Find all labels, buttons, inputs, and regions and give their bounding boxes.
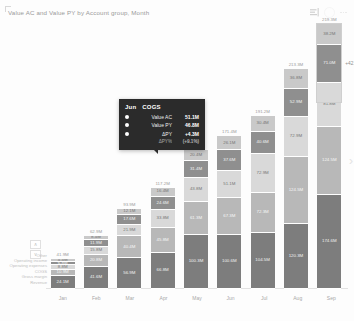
stacked-bar[interactable]: 41.9M4.4M6.8M8.8M10.9M24.1M xyxy=(51,259,75,289)
column-may[interactable]: 141.5M20.4M31.4M43.8M61.3M100.3M xyxy=(179,24,212,289)
x-axis-label-jan[interactable]: Jan xyxy=(46,295,80,307)
bar-segment-gross-margin[interactable]: 124.5M xyxy=(317,127,341,194)
stacked-bar[interactable]: 141.5M20.4M31.4M43.8M61.3M100.3M xyxy=(184,150,208,289)
bar-segment-revenue[interactable]: 24.1M xyxy=(51,276,75,289)
x-axis-label-feb[interactable]: Feb xyxy=(80,295,114,307)
segment-value-label: 16.4M xyxy=(157,189,169,193)
bar-segment-revenue[interactable]: 100.3M xyxy=(184,235,208,289)
segment-value-label: 100.3M xyxy=(189,259,204,263)
tooltip-label: ΔPY% xyxy=(132,139,172,144)
x-axis-label-aug[interactable]: Aug xyxy=(281,295,315,307)
x-axis-label-mar[interactable]: Mar xyxy=(113,295,147,307)
stacked-bar[interactable]: 171.4M26.1M37.6M51.1M67.3M100.6M xyxy=(217,136,241,289)
x-axis-label-jul[interactable]: Jul xyxy=(247,295,281,307)
bar-total-label: 219.3M xyxy=(317,17,341,22)
column-jul[interactable]: 191.2M30.4M40.6M72.9M72.3M104.5M xyxy=(246,24,279,289)
segment-value-label: 21.9M xyxy=(123,228,135,232)
bar-segment-gross-margin[interactable]: 45.8M xyxy=(151,228,175,253)
more-options-icon[interactable] xyxy=(340,9,347,16)
bar-segment-revenue[interactable]: 56.9M xyxy=(117,258,141,289)
bar-segment-gross-margin[interactable]: 72.3M xyxy=(251,193,275,232)
tooltip-row-value-py: Value PY 46.8M xyxy=(125,122,199,128)
bar-segment-operating-income[interactable]: 26.1M xyxy=(217,136,241,150)
segment-value-label: 41.6M xyxy=(90,275,102,279)
column-aug[interactable]: 213.3M36.8M52.9M72.9M124.5M120.3M xyxy=(279,24,312,289)
segment-value-label: 51.1M xyxy=(223,182,235,186)
bar-segment-cogs[interactable]: 72.9M xyxy=(251,154,275,193)
column-jun[interactable]: 171.4M26.1M37.6M51.1M67.3M100.6M xyxy=(213,24,246,289)
tooltip-label: Value PY xyxy=(132,122,172,128)
segment-value-label: 36.8M xyxy=(290,76,302,80)
stacked-bar[interactable]: 117.2M16.4M24.6M33.8M45.8M66.8M xyxy=(151,188,175,289)
bar-segment-operating-expenses[interactable]: 37.6M xyxy=(217,150,241,170)
tooltip-row-delta-py: ΔPY +4.3M xyxy=(125,131,199,137)
bar-total-label: 93.9M xyxy=(117,202,141,207)
bar-segment-gross-margin[interactable]: 67.3M xyxy=(217,198,241,234)
scroll-up-icon[interactable]: ∧ xyxy=(30,240,41,249)
bar-segment-gross-margin[interactable]: 124.5M xyxy=(284,157,308,224)
bar-segment-operating-expenses[interactable]: 17.6M xyxy=(117,215,141,225)
segment-value-label: 120.3M xyxy=(289,254,304,258)
bar-segment-revenue[interactable]: 100.6M xyxy=(217,235,241,289)
segment-value-label: 30.4M xyxy=(257,121,269,125)
x-axis-label-apr[interactable]: Apr xyxy=(147,295,181,307)
tooltip-header: Jun COGS xyxy=(125,104,199,110)
bar-segment-cogs[interactable]: 21.9M xyxy=(117,225,141,237)
stacked-bar[interactable]: 62.9M8.4M11.9M15.8M20.8M41.6M xyxy=(84,236,108,289)
segment-value-label: 37.6M xyxy=(223,158,235,162)
x-axis-label-sep[interactable]: Sep xyxy=(315,295,349,307)
bar-segment-operating-income[interactable]: 30.4M xyxy=(251,116,275,132)
column-apr[interactable]: 117.2M16.4M24.6M33.8M45.8M66.8M xyxy=(146,24,179,289)
segment-value-label: 8.4M xyxy=(91,236,101,240)
stacked-bar[interactable]: 93.9M12.1M17.6M21.9M40.4M56.9M xyxy=(117,209,141,290)
stacked-bar[interactable]: 191.2M30.4M40.6M72.9M72.3M104.5M xyxy=(251,116,275,289)
bar-total-label: 117.2M xyxy=(151,181,175,186)
segment-value-label: 11.9M xyxy=(90,241,102,245)
tooltip-value: 51.1M xyxy=(175,114,199,120)
delta-label: +42.1M xyxy=(345,61,354,66)
stacked-bar[interactable]: 213.3M36.8M52.9M72.9M124.5M120.3M xyxy=(284,69,308,289)
tooltip-label: ΔPY xyxy=(132,131,172,137)
segment-value-label: 100.6M xyxy=(222,259,237,263)
segment-value-label: 72.3M xyxy=(257,210,269,214)
bar-segment-operating-income[interactable]: 20.4M xyxy=(184,150,208,161)
chart-tooltip: Jun COGS Value AC 51.1M Value PY 46.8M Δ… xyxy=(119,99,205,150)
bar-segment-operating-expenses[interactable]: 40.6M xyxy=(251,132,275,154)
x-axis-label-jun[interactable]: Jun xyxy=(214,295,248,307)
bar-total-label: 62.9M xyxy=(84,229,108,234)
tooltip-tail xyxy=(153,149,158,154)
segment-value-label: 8.8M xyxy=(58,265,68,269)
power-bi-visual: Value AC and Value PY by Account group, … xyxy=(0,0,354,321)
bar-segment-gross-margin[interactable]: 40.4M xyxy=(117,236,141,258)
bar-segment-gross-margin[interactable]: 61.3M xyxy=(184,202,208,235)
bar-segment-cogs[interactable]: 33.8M xyxy=(151,210,175,228)
bar-segment-cogs[interactable]: 51.1M xyxy=(217,171,241,199)
bar-segment-cogs[interactable]: 15.8M xyxy=(84,247,108,256)
bar-segment-revenue[interactable]: 66.8M xyxy=(151,253,175,289)
bar-segment-cogs[interactable]: 43.8M xyxy=(184,178,208,202)
column-mar[interactable]: 93.9M12.1M17.6M21.9M40.4M56.9M xyxy=(113,24,146,289)
bar-segment-operating-expenses[interactable]: 31.4M xyxy=(184,161,208,178)
bar-segment-cogs[interactable]: 72.9M xyxy=(284,117,308,156)
x-axis-label-may[interactable]: May xyxy=(180,295,214,307)
column-jan[interactable]: 41.9M4.4M6.8M8.8M10.9M24.1M xyxy=(46,24,79,289)
column-feb[interactable]: 62.9M8.4M11.9M15.8M20.8M41.6M xyxy=(79,24,112,289)
next-page-chevron-icon[interactable]: › xyxy=(349,154,353,168)
bar-segment-revenue[interactable]: 104.5M xyxy=(251,233,275,289)
bar-segment-operating-expenses[interactable]: 24.6M xyxy=(151,197,175,210)
bar-segment-operating-income[interactable]: 16.4M xyxy=(151,188,175,197)
segment-value-label: 26.1M xyxy=(223,141,235,145)
bar-segment-revenue[interactable]: 120.3M xyxy=(284,224,308,289)
bar-segment-operating-expenses[interactable]: 52.9M xyxy=(284,89,308,118)
bar-segment-revenue[interactable]: 41.6M xyxy=(84,267,108,289)
segment-value-label: 174.6M xyxy=(322,239,337,243)
legend-item-revenue[interactable]: Revenue xyxy=(30,280,47,285)
tooltip-label: Value AC xyxy=(132,114,172,120)
filter-bars-icon[interactable] xyxy=(310,8,319,17)
bar-segment-revenue[interactable]: 174.6M xyxy=(317,195,341,289)
segment-value-label: 17.6M xyxy=(123,217,135,221)
bar-segment-gross-margin[interactable]: 20.8M xyxy=(84,255,108,266)
bar-segment-operating-income[interactable]: 36.8M xyxy=(284,69,308,89)
bar-total-label: 41.9M xyxy=(51,252,75,257)
segment-value-label: 24.6M xyxy=(157,201,169,205)
